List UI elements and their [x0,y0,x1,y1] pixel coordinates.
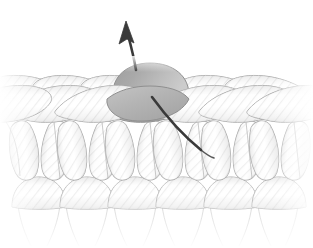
fade-bottom [0,196,313,248]
knit-fabric-illustration [0,0,313,248]
middle-course-legs [6,119,313,181]
knit-diagram-figure: Knitted fabric stitch diagram Cross-sect… [0,0,313,248]
fade-top [0,56,313,72]
